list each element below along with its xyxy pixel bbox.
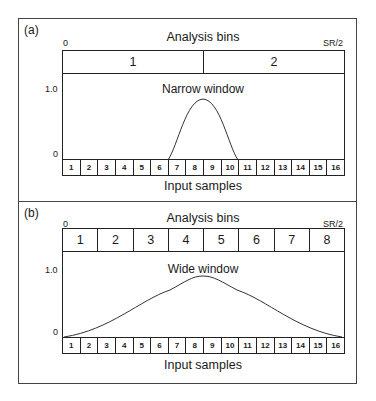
sample-cell: 7: [169, 338, 187, 353]
sample-cell: 6: [151, 338, 169, 353]
sample-cell: 1: [63, 338, 81, 353]
sample-cell: 4: [116, 338, 134, 353]
input-samples-title: Input samples: [62, 358, 344, 372]
sample-cell: 12: [257, 338, 275, 353]
sample-cell: 10: [222, 338, 240, 353]
sample-cell: 13: [275, 338, 293, 353]
sample-cell: 14: [292, 338, 310, 353]
input-samples-row: 1 2 3 4 5 6 7 8 9 10 11 12 13 14 15 16: [62, 337, 345, 354]
sample-cell: 15: [310, 338, 328, 353]
sample-cell: 2: [81, 338, 99, 353]
sample-cell: 9: [204, 338, 222, 353]
sample-cell: 16: [327, 338, 344, 353]
sample-cell: 11: [239, 338, 257, 353]
sample-cell: 5: [134, 338, 152, 353]
sample-cell: 8: [186, 338, 204, 353]
sample-cell: 3: [98, 338, 116, 353]
